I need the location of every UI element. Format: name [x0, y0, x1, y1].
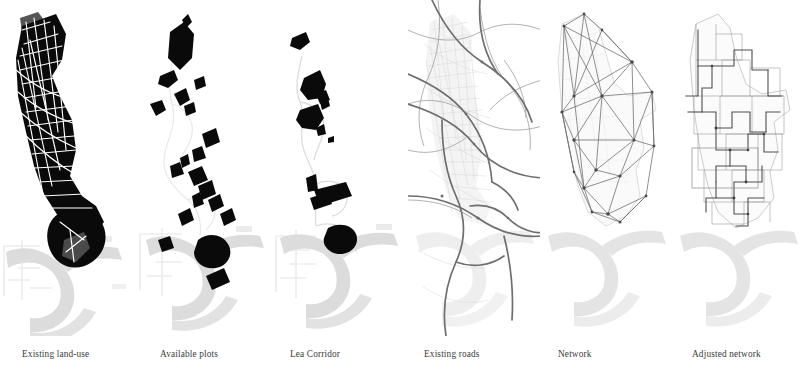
- panel-caption-existing-land-use: Existing land-use: [22, 350, 89, 359]
- map-canvas: [272, 0, 406, 336]
- panel-caption-network: Network: [558, 350, 592, 359]
- map-panel-existing-roads: [408, 0, 542, 336]
- panel-caption-available-plots: Available plots: [160, 350, 218, 359]
- map-panel-lea-corridor: [272, 0, 406, 336]
- panel-caption-adjusted-network: Adjusted network: [692, 350, 761, 359]
- map-panel-available-plots: [136, 0, 270, 336]
- map-panel-adjusted-network: [672, 0, 806, 336]
- map-series-figure: Existing land-use: [0, 0, 807, 371]
- map-canvas: [0, 0, 134, 336]
- map-canvas: [540, 0, 674, 336]
- map-canvas: [672, 0, 806, 336]
- map-canvas: [136, 0, 270, 336]
- map-panel-existing-land-use: [0, 0, 134, 336]
- map-panel-network: [540, 0, 674, 336]
- map-canvas: [408, 0, 542, 336]
- panel-caption-lea-corridor: Lea Corridor: [290, 350, 340, 359]
- panel-caption-existing-roads: Existing roads: [424, 350, 480, 359]
